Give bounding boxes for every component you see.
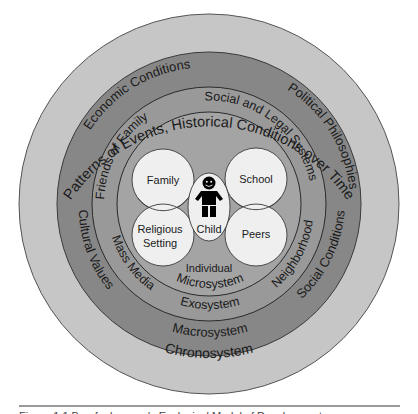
religious-setting-label-line2: Setting — [143, 237, 177, 249]
school-label: School — [239, 173, 273, 185]
religious-setting-label-line1: Religious — [137, 223, 183, 235]
child-label: Child — [196, 223, 221, 235]
figure-caption: Figure 1.1 Bronfenbrenner's Ecological M… — [19, 409, 322, 414]
micro-setting-religious-setting — [132, 204, 194, 266]
caption-divider — [19, 405, 400, 407]
ecological-systems-diagram: Patterns of Events, Historical Condition… — [0, 0, 418, 414]
family-label: Family — [147, 174, 180, 186]
individual-label: Individual — [186, 262, 232, 274]
peers-label: Peers — [242, 228, 271, 240]
